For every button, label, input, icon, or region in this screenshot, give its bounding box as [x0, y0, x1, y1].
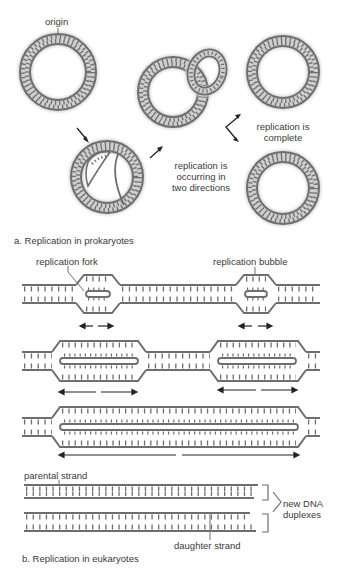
linear-dna-row-3 [22, 407, 320, 447]
linear-dna-row-2 [22, 341, 320, 381]
arrow-icon [77, 128, 89, 143]
label-new-dna-duplexes: new DNA duplexes [283, 498, 323, 520]
caption-panel-a: a. Replication in prokaryotes [14, 235, 134, 246]
circular-dna-replicating [71, 141, 143, 213]
label-origin: origin [45, 16, 68, 27]
new-dna-duplexes [24, 480, 281, 540]
theta-structure-dna [138, 44, 233, 127]
direction-arrows-row-2 [59, 388, 297, 395]
caption-panel-b: b. Replication in eukaryotes [22, 553, 139, 564]
dna-replication-figure [0, 0, 339, 572]
label-new-dna-line-2: duplexes [283, 509, 323, 520]
label-occurring-line-3: two directions [166, 182, 236, 193]
circular-dna-complete-2 [247, 152, 319, 224]
label-replication-bubble: replication bubble [213, 256, 287, 267]
circular-dna-complete-1 [247, 36, 319, 108]
label-replication-complete: replication is complete [250, 121, 316, 143]
label-replication-occurring: replication is occurring in two directio… [166, 160, 236, 193]
arrow-icon [150, 146, 163, 158]
label-occurring-line-2: occurring in [166, 171, 236, 182]
circular-dna-origin [20, 28, 96, 110]
label-complete-line-2: complete [250, 132, 316, 143]
linear-dna-row-1 [22, 266, 320, 313]
branch-arrow-icon [226, 114, 241, 142]
label-parental-strand: parental strand [24, 470, 87, 481]
label-replication-fork: replication fork [36, 256, 98, 267]
label-complete-line-1: replication is [250, 121, 316, 132]
label-occurring-line-1: replication is [166, 160, 236, 171]
direction-arrows-row-3 [59, 453, 299, 458]
label-new-dna-line-1: new DNA [283, 498, 323, 509]
label-daughter-strand: daughter strand [174, 540, 241, 551]
direction-arrows-row-1 [80, 324, 272, 329]
